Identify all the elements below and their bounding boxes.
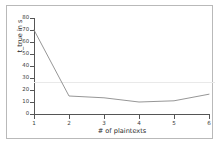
series-polyline [34,30,209,102]
chart-figure: t_true in s 01020304050607080 123456 # o… [6,5,213,139]
data-series-line [7,6,214,140]
